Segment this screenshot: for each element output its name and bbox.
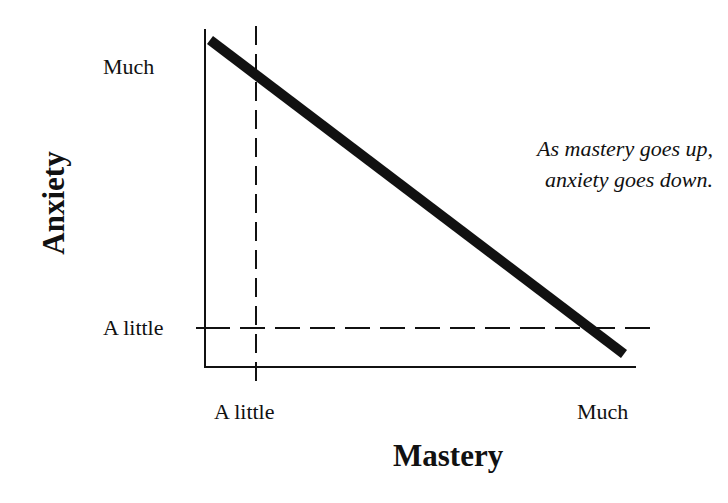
x-axis-title: Mastery — [393, 440, 503, 471]
x-tick-label-a-little: A little — [214, 401, 275, 423]
x-tick-label-much: Much — [577, 401, 628, 423]
annotation-line-2: anxiety goes down. — [537, 164, 713, 195]
y-axis-title: Anxiety — [38, 151, 69, 254]
y-tick-label-much: Much — [103, 56, 154, 78]
trend-line — [210, 40, 624, 354]
annotation-text: As mastery goes up, anxiety goes down. — [537, 133, 713, 195]
y-tick-label-a-little: A little — [103, 317, 164, 339]
annotation-line-1: As mastery goes up, — [537, 133, 713, 164]
